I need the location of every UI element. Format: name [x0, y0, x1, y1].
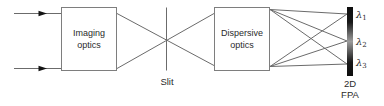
- lambda1-subscript: 1: [362, 14, 366, 22]
- input-ray-bottom-arrowhead-icon: [39, 66, 48, 72]
- dispersed-ray-bottom-to-lambda3: [270, 64, 347, 67]
- dispersed-ray-top-to-lambda1: [270, 10, 347, 15]
- lambda3-subscript: 3: [362, 62, 366, 70]
- wavelength-label-lambda1: λ1: [356, 8, 367, 22]
- wavelength-label-lambda3: λ3: [356, 56, 367, 70]
- wavelength-label-lambda2: λ2: [356, 35, 367, 49]
- dispersed-ray-bottom-to-lambda2: [270, 41, 347, 67]
- dispersed-ray-bottom-to-lambda1: [270, 14, 347, 67]
- lambda2-subscript: 2: [362, 41, 366, 49]
- imaging-optics-box: Imaging optics: [61, 7, 117, 71]
- imaging-spectrometer-diagram: Imaging optics Dispersive optics Slit λ1…: [0, 0, 384, 106]
- fpa-detector-bar: [347, 7, 353, 76]
- dispersive-optics-box: Dispersive optics: [214, 7, 270, 71]
- optical-rays-layer: [0, 0, 384, 106]
- fpa-detector-label: 2D FPA: [333, 78, 367, 100]
- slit-label: Slit: [148, 76, 186, 88]
- imaging-optics-label: Imaging optics: [73, 27, 105, 51]
- input-ray-top-arrowhead-icon: [39, 11, 48, 17]
- dispersive-optics-label: Dispersive optics: [221, 27, 263, 51]
